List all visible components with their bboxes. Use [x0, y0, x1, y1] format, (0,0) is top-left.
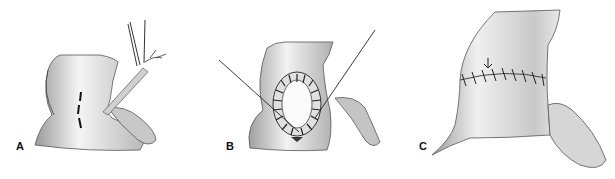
panel-c-illustration — [410, 0, 615, 179]
panel-a-illustration — [0, 0, 205, 179]
panel-b-label: B — [226, 140, 234, 152]
panel-b-illustration — [205, 0, 410, 179]
panel-a-label: A — [16, 140, 24, 152]
panel-b: B — [205, 0, 410, 179]
panel-a: A — [0, 0, 205, 179]
panel-c-label: C — [419, 140, 427, 152]
panel-c: C — [410, 0, 615, 179]
